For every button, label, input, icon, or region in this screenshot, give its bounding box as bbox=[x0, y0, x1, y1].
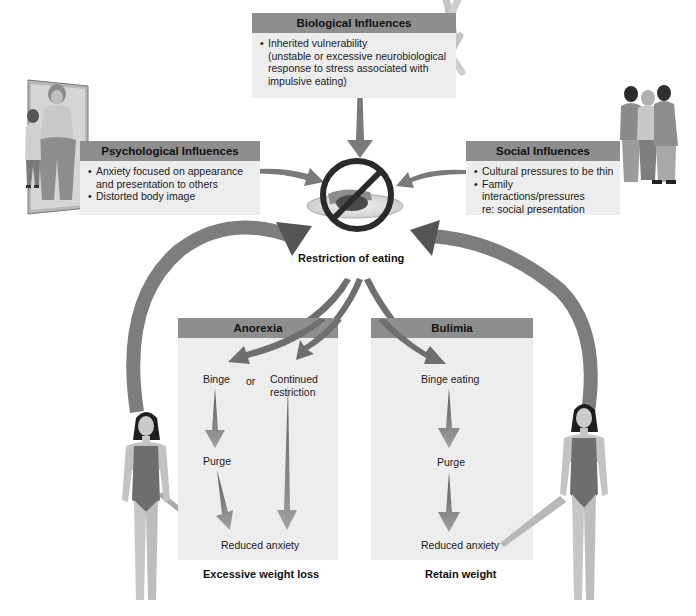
psychological-title: Psychological Influences bbox=[80, 141, 260, 161]
anorexia-or: or bbox=[246, 375, 255, 388]
social-title: Social Influences bbox=[466, 141, 620, 161]
bulimia-binge-eating: Binge eating bbox=[421, 373, 479, 386]
social-influences-panel: Social Influences Cultural pressures to … bbox=[466, 141, 620, 215]
bulimia-purge: Purge bbox=[437, 456, 465, 469]
bulimia-panel: Bulimia bbox=[371, 318, 533, 560]
psychological-item: Distorted body image bbox=[88, 190, 254, 203]
no-food-icon bbox=[307, 161, 403, 229]
biological-title: Biological Influences bbox=[252, 13, 456, 33]
mirror-reflection-icon bbox=[25, 80, 88, 214]
biological-influences-panel: Biological Influences Inherited vulnerab… bbox=[252, 13, 456, 98]
anorexia-title: Anorexia bbox=[178, 318, 338, 338]
social-item: Cultural pressures to be thin bbox=[474, 165, 614, 178]
left-pointer bbox=[160, 494, 180, 510]
anorexia-purge: Purge bbox=[203, 455, 231, 468]
bulimia-title: Bulimia bbox=[371, 318, 533, 338]
anorexia-continued-restriction: Continued restriction bbox=[270, 373, 318, 398]
psychological-item: Anxiety focused on appearance and presen… bbox=[88, 165, 254, 190]
social-item: Family interactions/pressures re: social… bbox=[474, 178, 614, 216]
biological-item: Inherited vulnerability (unstable or exc… bbox=[260, 37, 450, 87]
anorexia-binge: Binge bbox=[203, 373, 230, 386]
psychological-influences-panel: Psychological Influences Anxiety focused… bbox=[80, 141, 260, 215]
anorexia-reduced-anxiety: Reduced anxiety bbox=[221, 539, 299, 552]
woman-figure-right-icon bbox=[560, 404, 608, 600]
anorexia-panel: Anorexia bbox=[178, 318, 338, 560]
bulimia-reduced-anxiety: Reduced anxiety bbox=[421, 539, 499, 552]
anorexia-outcome: Excessive weight loss bbox=[203, 568, 319, 580]
peer-group-icon bbox=[620, 85, 678, 184]
arrow-left-icon bbox=[396, 170, 466, 188]
woman-figure-left-icon bbox=[122, 412, 170, 600]
bulimia-outcome: Retain weight bbox=[425, 568, 497, 580]
restriction-label: Restriction of eating bbox=[298, 252, 404, 264]
